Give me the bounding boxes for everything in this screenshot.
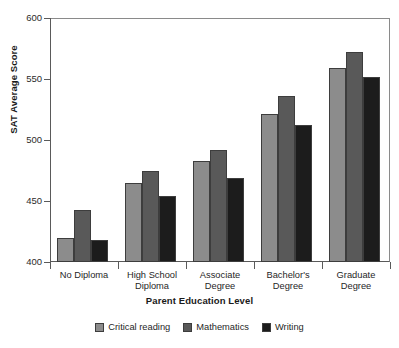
x-axis-tick [186, 262, 187, 269]
legend-label: Mathematics [196, 322, 249, 332]
bar [346, 52, 363, 262]
bar [210, 150, 227, 262]
legend-swatch-icon [183, 323, 192, 332]
bar [261, 114, 278, 262]
bar [74, 210, 91, 262]
chart-legend: Critical readingMathematicsWriting [0, 322, 399, 332]
y-axis-tick-label: 600 [16, 13, 42, 23]
x-axis-category-label-line: Graduate [312, 270, 399, 281]
y-axis-tick-label: 550 [16, 74, 42, 84]
legend-swatch-icon [95, 323, 104, 332]
y-axis-tick-label: 500 [16, 135, 42, 145]
y-axis-tick [44, 201, 51, 202]
y-axis-tick [44, 79, 51, 80]
y-axis-tick [44, 18, 51, 19]
bar [125, 183, 142, 262]
bar [159, 196, 176, 262]
legend-item: Writing [262, 322, 304, 332]
x-axis-tick [50, 262, 51, 269]
y-axis-tick [44, 140, 51, 141]
y-axis-tick-label: 400 [16, 257, 42, 267]
bar [193, 161, 210, 262]
x-axis-category-label: GraduateDegree [312, 270, 399, 292]
bar [227, 178, 244, 262]
bar [142, 171, 159, 263]
legend-label: Writing [275, 322, 304, 332]
bar [91, 240, 108, 262]
legend-item: Critical reading [95, 322, 170, 332]
bar [57, 238, 74, 262]
x-axis-title: Parent Education Level [0, 295, 399, 306]
bar [278, 96, 295, 262]
x-axis-tick [118, 262, 119, 269]
legend-item: Mathematics [183, 322, 249, 332]
bar [295, 125, 312, 262]
bar [363, 77, 380, 262]
y-axis-tick-label: 450 [16, 196, 42, 206]
x-axis-tick [390, 262, 391, 269]
y-axis-title: SAT Average Score [8, 30, 19, 150]
legend-label: Critical reading [108, 322, 170, 332]
x-axis-tick [322, 262, 323, 269]
legend-swatch-icon [262, 323, 271, 332]
bar [329, 68, 346, 262]
sat-score-bar-chart: SAT Average Score 400450500550600 No Dip… [0, 0, 399, 348]
x-axis-tick [254, 262, 255, 269]
x-axis-category-label-line: Degree [312, 281, 399, 292]
